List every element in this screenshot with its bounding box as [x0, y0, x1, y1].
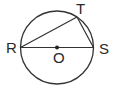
label-r: R — [6, 39, 17, 56]
label-t: T — [76, 0, 85, 17]
chord-rt — [21, 17, 78, 48]
label-s: S — [99, 40, 109, 57]
circle-diagram: R S T O — [0, 0, 117, 90]
chord-ts — [77, 17, 94, 48]
label-o: O — [53, 49, 65, 66]
